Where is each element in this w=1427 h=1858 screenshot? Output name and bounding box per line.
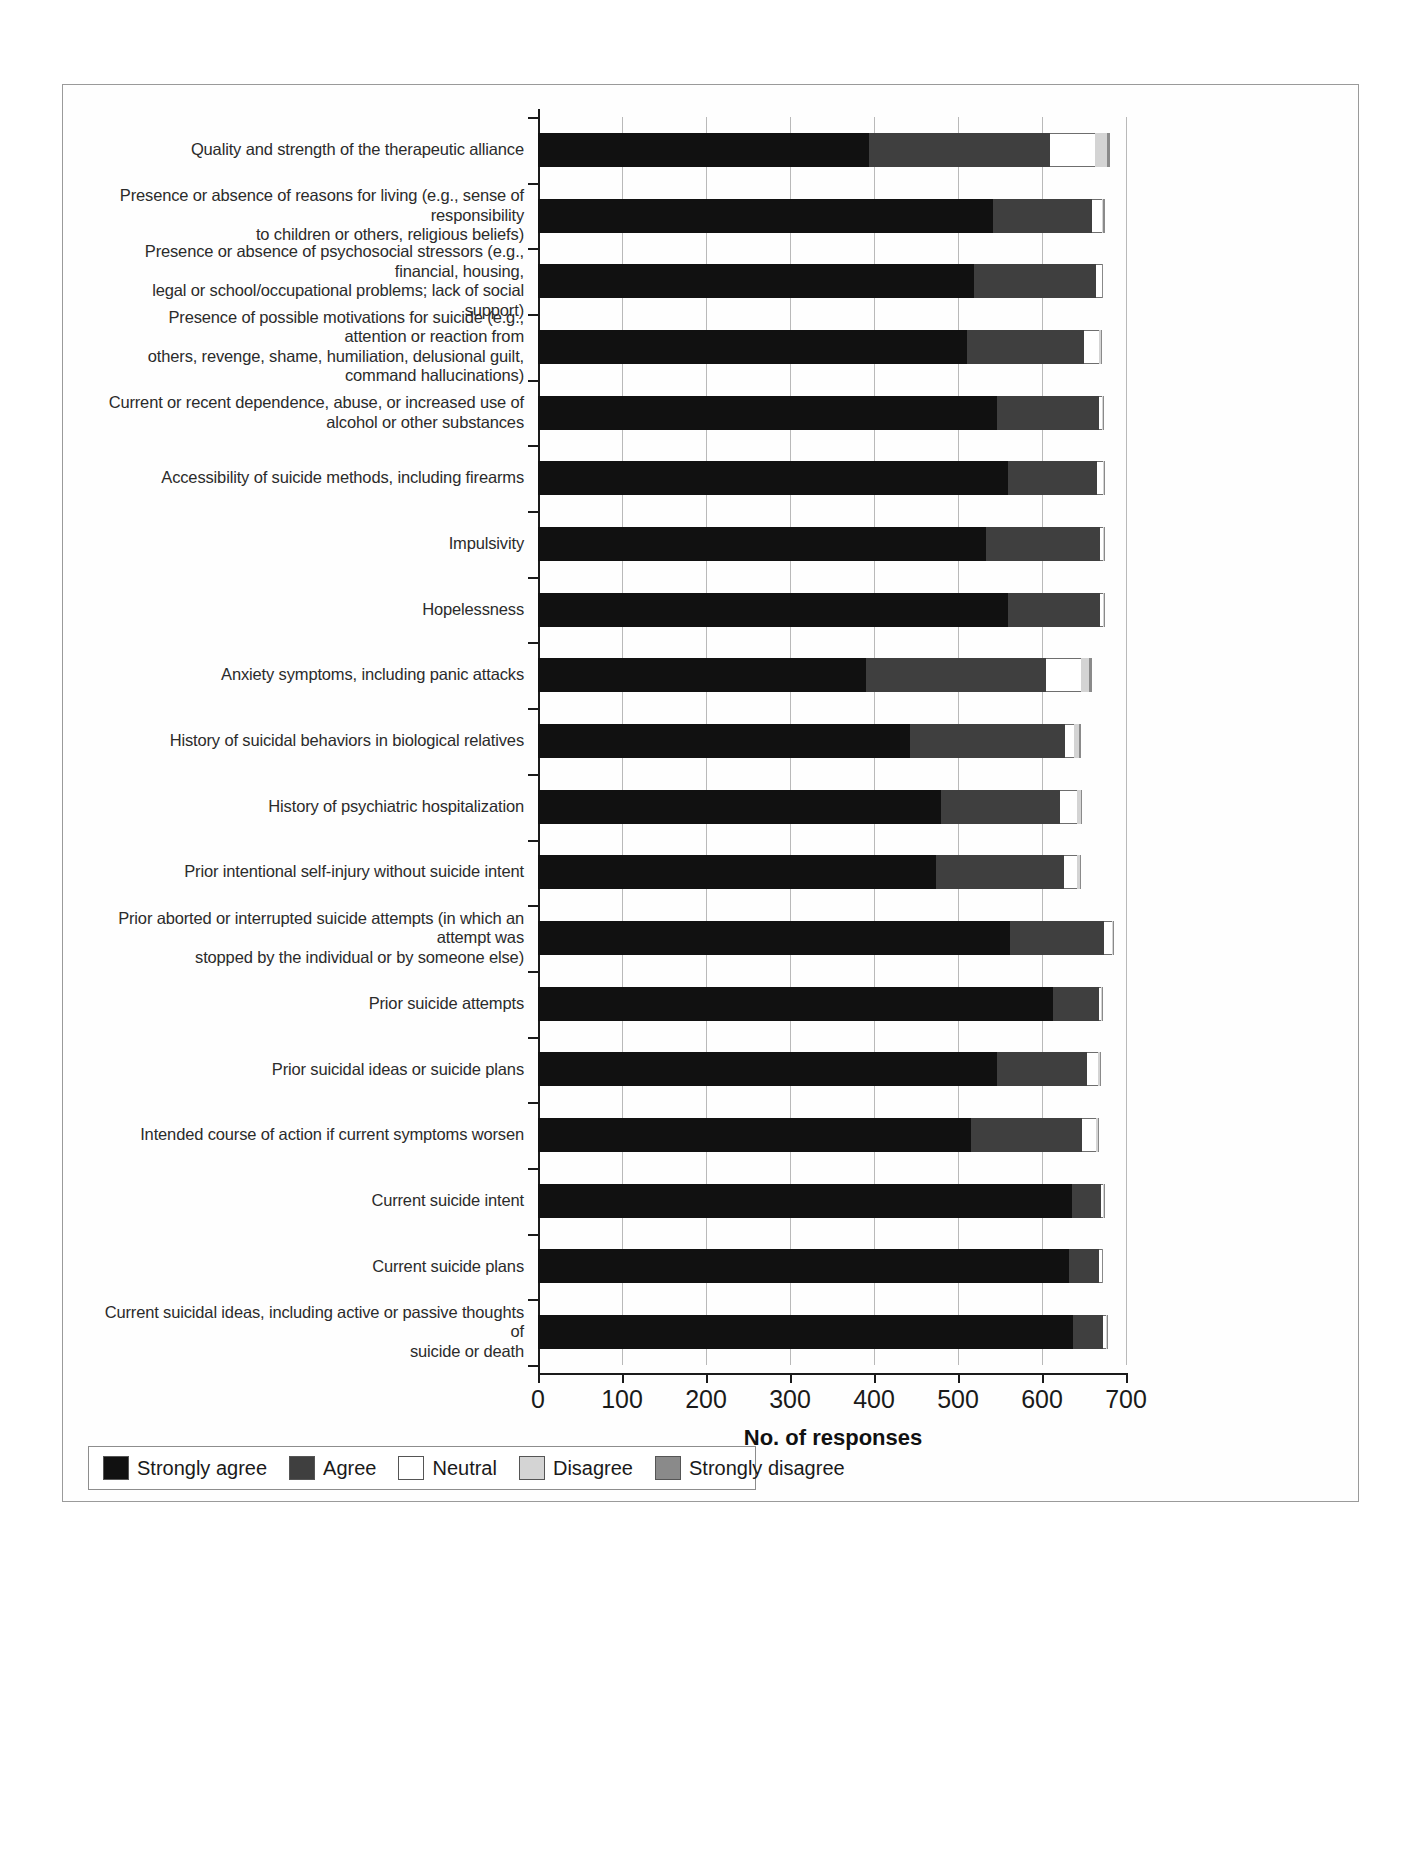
- bar-segment-neutral: [1087, 1052, 1099, 1086]
- bar-segment-strongly-agree: [538, 527, 986, 561]
- x-tick: [790, 1373, 792, 1383]
- stacked-bar: [538, 248, 1169, 314]
- category-label: Hopelessness: [103, 600, 538, 619]
- stacked-bar: [538, 708, 1169, 774]
- bar-segment-agree: [997, 1052, 1087, 1086]
- x-tick: [874, 1373, 876, 1383]
- category-label: Anxiety symptoms, including panic attack…: [103, 665, 538, 684]
- chart-row: Accessibility of suicide methods, includ…: [103, 445, 1169, 511]
- y-tick: [528, 971, 539, 973]
- category-label: Impulsivity: [103, 534, 538, 553]
- y-tick: [528, 642, 539, 644]
- category-label: Prior intentional self-injury without su…: [103, 862, 538, 881]
- x-tick-label: 100: [601, 1385, 643, 1414]
- legend-item-strongly-agree[interactable]: Strongly agree: [103, 1456, 267, 1480]
- legend-item-strongly-disagree[interactable]: Strongly disagree: [655, 1456, 845, 1480]
- bar-segment-strongly-disagree: [1100, 1052, 1101, 1086]
- x-tick-label: 500: [937, 1385, 979, 1414]
- y-tick: [528, 1168, 539, 1170]
- bar-segment-agree: [941, 790, 1060, 824]
- bar-segment-strongly-agree: [538, 1184, 1072, 1218]
- y-tick: [528, 1299, 539, 1301]
- y-tick: [528, 183, 539, 185]
- legend-swatch-strongly-disagree: [655, 1456, 681, 1480]
- x-tick-label: 400: [853, 1385, 895, 1414]
- legend-item-neutral[interactable]: Neutral: [398, 1456, 496, 1480]
- stacked-bar: [538, 774, 1169, 840]
- bar-segment-strongly-disagree: [1104, 461, 1105, 495]
- stacked-bar: [538, 511, 1169, 577]
- bar-segment-agree: [869, 133, 1050, 167]
- bar-segment-strongly-disagree: [1104, 527, 1105, 561]
- chart-row: Current suicide plans: [103, 1233, 1169, 1299]
- category-label: Presence or absence of reasons for livin…: [103, 186, 538, 244]
- chart-legend: Strongly agreeAgreeNeutralDisagreeStrong…: [88, 1446, 756, 1490]
- chart-row: Intended course of action if current sym…: [103, 1102, 1169, 1168]
- bar-segment-strongly-disagree: [1102, 264, 1103, 298]
- chart-row: Prior suicidal ideas or suicide plans: [103, 1036, 1169, 1102]
- x-tick: [706, 1373, 708, 1383]
- category-label: Prior aborted or interrupted suicide att…: [103, 909, 538, 967]
- category-label: Current suicide plans: [103, 1257, 538, 1276]
- bar-segment-agree: [1069, 1249, 1099, 1283]
- bar-segment-strongly-agree: [538, 1249, 1069, 1283]
- chart-row: History of psychiatric hospitalization: [103, 774, 1169, 840]
- bar-segment-strongly-disagree: [1102, 1249, 1103, 1283]
- chart-row: Presence of possible motivations for sui…: [103, 314, 1169, 380]
- chart-row: Prior intentional self-injury without su…: [103, 839, 1169, 905]
- stacked-bar: [538, 117, 1169, 183]
- bar-segment-strongly-disagree: [1103, 199, 1105, 233]
- bar-segment-strongly-disagree: [1101, 330, 1102, 364]
- stacked-bar: [538, 642, 1169, 708]
- bar-segment-strongly-disagree: [1081, 790, 1083, 824]
- y-tick: [528, 708, 539, 710]
- x-tick: [1126, 1373, 1128, 1383]
- bar-segment-strongly-disagree: [1103, 396, 1104, 430]
- x-tick: [958, 1373, 960, 1383]
- stacked-bar: [538, 1233, 1169, 1299]
- figure-frame: Quality and strength of the therapeutic …: [62, 84, 1359, 1502]
- legend-label: Neutral: [432, 1457, 496, 1480]
- chart-row: History of suicidal behaviors in biologi…: [103, 708, 1169, 774]
- category-label: Prior suicidal ideas or suicide plans: [103, 1060, 538, 1079]
- y-tick: [528, 577, 539, 579]
- bar-segment-strongly-disagree: [1079, 724, 1081, 758]
- category-label: Quality and strength of the therapeutic …: [103, 140, 538, 159]
- bar-segment-agree: [1053, 987, 1099, 1021]
- bar-segment-agree: [993, 199, 1092, 233]
- category-label: Accessibility of suicide methods, includ…: [103, 468, 538, 487]
- category-label: Current suicidal ideas, including active…: [103, 1303, 538, 1361]
- bar-segment-strongly-agree: [538, 133, 869, 167]
- stacked-bar: [538, 839, 1169, 905]
- category-label: History of psychiatric hospitalization: [103, 797, 538, 816]
- bar-segment-agree: [910, 724, 1065, 758]
- legend-label: Strongly agree: [137, 1457, 267, 1480]
- category-label: Prior suicide attempts: [103, 994, 538, 1013]
- bar-segment-strongly-agree: [538, 461, 1008, 495]
- legend-label: Disagree: [553, 1457, 633, 1480]
- bar-segment-disagree: [1095, 133, 1107, 167]
- bar-segment-strongly-agree: [538, 790, 941, 824]
- x-tick-label: 300: [769, 1385, 811, 1414]
- legend-item-agree[interactable]: Agree: [289, 1456, 376, 1480]
- y-tick: [528, 1037, 539, 1039]
- chart-row: Prior suicide attempts: [103, 971, 1169, 1037]
- chart-row: Presence or absence of reasons for livin…: [103, 183, 1169, 249]
- stacked-bar: [538, 1168, 1169, 1234]
- bar-segment-strongly-disagree: [1089, 658, 1092, 692]
- y-tick: [528, 1365, 539, 1367]
- bar-segment-strongly-disagree: [1102, 987, 1103, 1021]
- bar-segment-agree: [1010, 921, 1104, 955]
- legend-swatch-strongly-agree: [103, 1456, 129, 1480]
- legend-item-disagree[interactable]: Disagree: [519, 1456, 633, 1480]
- bar-segment-strongly-disagree: [1104, 593, 1105, 627]
- y-tick: [528, 905, 539, 907]
- bar-segment-strongly-disagree: [1107, 1315, 1108, 1349]
- bar-segment-neutral: [1065, 724, 1074, 758]
- chart-row: Anxiety symptoms, including panic attack…: [103, 642, 1169, 708]
- stacked-bar: [538, 905, 1169, 971]
- bar-segment-strongly-disagree: [1098, 1118, 1099, 1152]
- y-tick: [528, 511, 539, 513]
- bar-segment-strongly-agree: [538, 658, 866, 692]
- bar-segment-neutral: [1092, 199, 1101, 233]
